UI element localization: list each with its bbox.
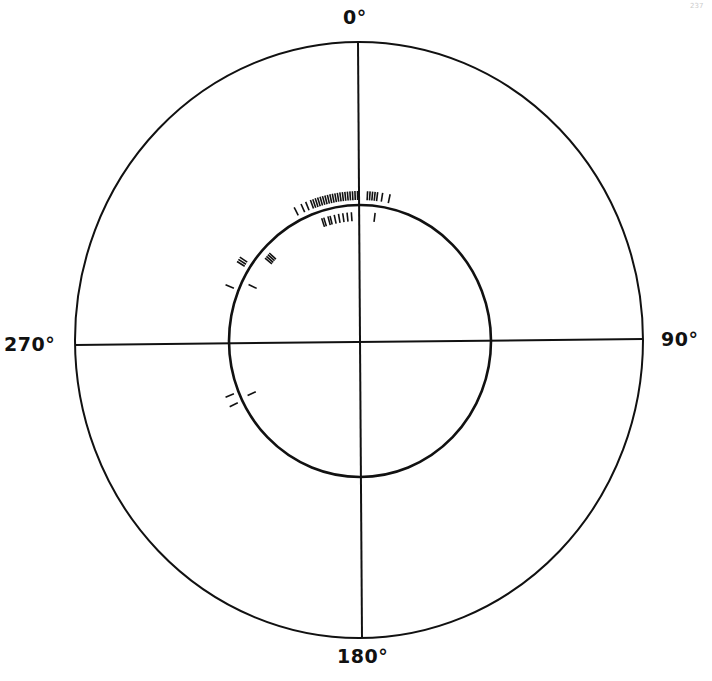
tick-mark xyxy=(226,285,234,288)
tick-mark xyxy=(226,394,234,397)
tick-mark xyxy=(381,193,382,202)
label-90-deg: 90° xyxy=(661,328,698,350)
vertical-axis xyxy=(358,42,362,638)
tick-mark xyxy=(301,204,305,212)
tick-mark xyxy=(372,192,373,201)
tick-mark xyxy=(330,194,332,203)
tick-mark xyxy=(347,213,348,222)
tick-mark xyxy=(322,196,324,205)
tick-mark xyxy=(345,192,346,201)
tick-mark xyxy=(327,195,329,204)
outer-ticks xyxy=(226,191,391,407)
label-0-deg: 0° xyxy=(343,6,367,28)
tick-mark xyxy=(332,194,334,203)
label-180-deg: 180° xyxy=(337,645,388,667)
page-number: 237 xyxy=(690,2,703,10)
tick-mark xyxy=(335,193,337,202)
tick-mark xyxy=(248,392,256,396)
tick-mark xyxy=(338,214,340,223)
label-270-deg: 270° xyxy=(4,333,55,355)
polar-diagram xyxy=(0,0,712,681)
tick-mark xyxy=(337,193,338,202)
tick-mark xyxy=(374,192,375,201)
tick-mark xyxy=(350,191,351,200)
tick-mark xyxy=(347,192,348,201)
tick-mark xyxy=(340,192,341,201)
tick-mark xyxy=(351,212,352,221)
tick-mark xyxy=(325,195,327,204)
tick-mark xyxy=(377,192,378,201)
tick-mark xyxy=(334,215,336,224)
tick-mark xyxy=(306,202,309,210)
tick-mark xyxy=(342,192,343,201)
inner-ticks xyxy=(248,212,375,395)
tick-mark xyxy=(374,213,375,222)
tick-mark xyxy=(249,284,257,288)
tick-mark xyxy=(388,194,390,203)
tick-mark xyxy=(343,213,344,222)
tick-mark xyxy=(294,207,298,215)
tick-mark xyxy=(369,191,370,200)
tick-mark xyxy=(230,403,238,407)
